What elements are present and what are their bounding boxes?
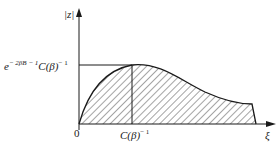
x-axis-label: ξ (265, 129, 270, 141)
x-mark-label: C(β)− 1 (120, 128, 149, 141)
x-axis-arrow-icon (266, 121, 276, 127)
hatched-region (79, 60, 259, 124)
y-axis-label: |z| (64, 8, 74, 20)
y-axis-arrow-icon (76, 8, 82, 17)
y-mark-label: e− 2βB − 1C(β)− 1 (4, 59, 68, 72)
origin-label: 0 (74, 127, 80, 139)
